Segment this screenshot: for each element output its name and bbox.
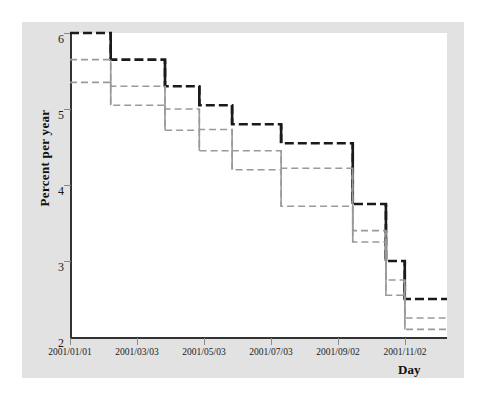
x-tick-mark-4 (338, 338, 339, 345)
x-tick-mark-3 (271, 338, 272, 345)
x-tick-label-0: 2001/01/01 (48, 347, 91, 357)
x-axis-label: Day (398, 362, 420, 378)
x-tick-label-3: 2001/07/03 (249, 347, 292, 357)
x-tick-mark-0 (70, 338, 71, 345)
y-tick-label-3: 3 (34, 261, 64, 273)
y-tick-2: 2 (28, 337, 64, 338)
plot-area (70, 33, 447, 338)
y-tick-mark-6 (64, 33, 71, 34)
x-tick-mark-2 (204, 338, 205, 345)
y-tick-3: 3 (28, 261, 64, 262)
x-tick-mark-5 (405, 338, 406, 345)
chart-figure: 6 5 4 3 2 2001/01/01 2001/03/03 2001/05/… (0, 0, 486, 400)
x-tick-mark-1 (137, 338, 138, 345)
y-tick-6: 6 (28, 33, 64, 34)
x-tick-label-2: 2001/05/03 (182, 347, 225, 357)
y-tick-mark-5 (64, 109, 71, 110)
x-tick-label-4: 2001/09/02 (316, 347, 359, 357)
x-tick-label-1: 2001/03/03 (115, 347, 158, 357)
x-axis-line (70, 337, 447, 339)
y-tick-mark-3 (64, 261, 71, 262)
y-axis-label: Percent per year (37, 83, 53, 233)
y-tick-mark-4 (64, 185, 71, 186)
y-tick-label-6: 6 (34, 33, 64, 45)
x-tick-label-5: 2001/11/02 (384, 347, 427, 357)
